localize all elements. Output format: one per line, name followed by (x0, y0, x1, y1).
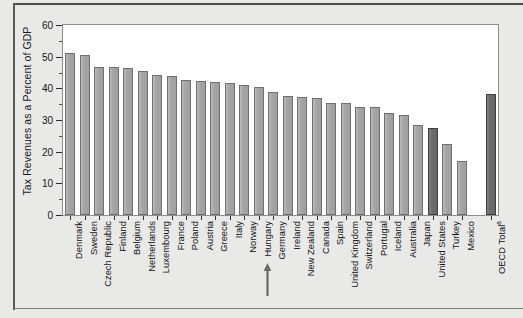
x-tick (215, 216, 216, 220)
x-label-norway: Norway (248, 221, 258, 253)
x-axis-labels: DenmarkSwedenCzech RepublicFinlandBelgiu… (63, 221, 498, 316)
bar-japan (413, 125, 423, 215)
bar-iceland (384, 113, 394, 215)
bar-united-states (428, 128, 438, 215)
bar-switzerland (355, 107, 365, 215)
x-label-switzerland: Switzerland (364, 221, 374, 270)
bar-belgium (123, 68, 133, 215)
x-tick (201, 216, 202, 220)
x-label-germany: Germany (277, 221, 287, 260)
bar-germany (268, 92, 278, 216)
bar-poland (181, 80, 191, 215)
x-label-italy: Italy (234, 221, 244, 238)
x-tick (143, 216, 144, 220)
bar-italy (225, 83, 235, 215)
x-label-australia: Australia (408, 221, 418, 258)
bar-oecd-total (486, 94, 496, 215)
x-tick (433, 216, 434, 220)
bar-chart: Tax Revenues as a Percent of GDP 0102030… (0, 0, 523, 318)
x-label-hungary: Hungary (263, 221, 273, 257)
x-label-japan: Japan (422, 221, 432, 247)
x-tick (230, 216, 231, 220)
x-label-france: France (176, 221, 186, 250)
bar-spain (326, 103, 336, 215)
bar-denmark (65, 53, 75, 215)
bar-sweden (80, 55, 90, 215)
x-label-ireland: Ireland (292, 221, 302, 250)
bar-france (167, 76, 177, 215)
x-label-spain: Spain (335, 221, 345, 245)
x-label-portugal: Portugal (379, 221, 389, 256)
x-label-sweden: Sweden (89, 221, 99, 255)
bar-ireland (283, 96, 293, 215)
y-tick-label: 0 (47, 210, 53, 221)
x-tick (331, 216, 332, 220)
x-label-new-zealand: New Zealand (306, 221, 316, 276)
x-label-mexico: Mexico (466, 221, 476, 251)
y-tick-label: 10 (42, 178, 53, 189)
bar-new-zealand (297, 97, 307, 215)
x-tick (404, 216, 405, 220)
x-tick (317, 216, 318, 220)
y-tick-label: 20 (42, 146, 53, 157)
x-tick (70, 216, 71, 220)
y-tick-label: 40 (42, 83, 53, 94)
x-tick (389, 216, 390, 220)
x-tick (114, 216, 115, 220)
x-tick (157, 216, 158, 220)
x-label-turkey: Turkey (451, 221, 461, 249)
x-tick (447, 216, 448, 220)
x-label-greece: Greece (219, 221, 229, 252)
x-tick (128, 216, 129, 220)
x-label-iceland: Iceland (393, 221, 403, 251)
y-tick-label: 50 (42, 51, 53, 62)
bar-mexico (457, 161, 467, 215)
bar-finland (109, 67, 119, 215)
x-tick (99, 216, 100, 220)
x-tick (273, 216, 274, 220)
bar-netherlands (138, 71, 148, 215)
bar-united-kingdom (341, 103, 351, 215)
y-tick-label: 30 (42, 115, 53, 126)
x-label-finland: Finland (118, 221, 128, 252)
bar-canada (312, 98, 322, 215)
page-background: Tax Revenues as a Percent of GDP 0102030… (0, 0, 523, 318)
germany-pointer-arrow-icon (263, 263, 272, 296)
x-label-austria: Austria (205, 221, 215, 250)
x-tick (288, 216, 289, 220)
x-tick (491, 216, 492, 220)
x-tick (462, 216, 463, 220)
x-label-oecd-total: OECD Totala (495, 221, 507, 274)
x-tick (375, 216, 376, 220)
x-label-czech-republic: Czech Republic (103, 221, 113, 287)
bar-greece (210, 82, 220, 215)
x-label-united-kingdom: United Kingdom (350, 221, 360, 288)
x-label-belgium: Belgium (132, 221, 142, 255)
y-axis-ticks: 0102030405060 (0, 24, 62, 216)
x-tick (302, 216, 303, 220)
x-tick (360, 216, 361, 220)
x-tick (85, 216, 86, 220)
x-label-canada: Canada (321, 221, 331, 254)
bar-austria (196, 81, 206, 215)
y-tick-label: 60 (42, 20, 53, 31)
bar-turkey (442, 144, 452, 215)
bar-luxembourg (152, 75, 162, 215)
bar-portugal (370, 107, 380, 215)
x-tick (259, 216, 260, 220)
x-label-netherlands: Netherlands (147, 221, 157, 272)
bar-series (63, 25, 498, 215)
bar-australia (399, 115, 409, 215)
x-label-poland: Poland (190, 221, 200, 250)
x-label-denmark: Denmark (74, 221, 84, 259)
x-tick (172, 216, 173, 220)
x-label-united-states: United States (437, 221, 447, 277)
x-label-luxembourg: Luxembourg (161, 221, 171, 273)
x-tick (186, 216, 187, 220)
x-tick (346, 216, 347, 220)
bar-czech-republic (94, 67, 104, 215)
x-tick (418, 216, 419, 220)
bar-norway (239, 85, 249, 215)
bar-hungary (254, 87, 264, 215)
x-tick (244, 216, 245, 220)
